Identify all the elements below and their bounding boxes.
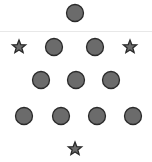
- shapes-layer: [0, 0, 152, 162]
- circle-shape: [33, 72, 50, 89]
- star-icon: [123, 40, 136, 53]
- circle-shape: [89, 108, 106, 125]
- circle-shape: [46, 39, 63, 56]
- diagram-canvas: [0, 0, 152, 162]
- circle-shape: [103, 72, 120, 89]
- circle-shape: [87, 39, 104, 56]
- star-icon: [68, 142, 81, 155]
- star-icon: [12, 40, 25, 53]
- circle-shape: [53, 108, 70, 125]
- circle-shape: [16, 108, 33, 125]
- circle-shape: [67, 5, 84, 22]
- circle-shape: [125, 108, 142, 125]
- circle-shape: [68, 72, 85, 89]
